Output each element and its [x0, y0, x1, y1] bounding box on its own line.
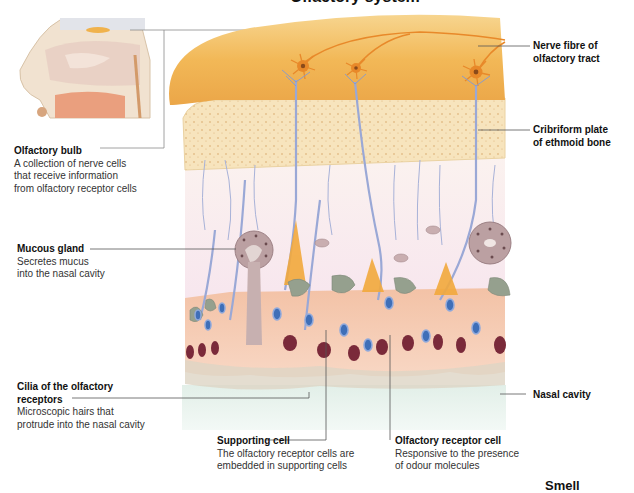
olfactory-receptor-cell-title: Olfactory receptor cell: [395, 435, 519, 448]
mucous-gland-title: Mucous gland: [17, 243, 105, 256]
olfactory-bulb-desc: A collection of nerve cells that receive…: [14, 158, 137, 196]
diagram-title-cropped: Olfactory system: [290, 0, 420, 6]
mucous-gland-desc: Secretes mucus into the nasal cavity: [17, 256, 105, 281]
cilia-desc: Microscopic hairs that protrude into the…: [17, 406, 145, 431]
cribriform-plate: [183, 98, 505, 170]
olfactory-bulb: [169, 15, 505, 105]
label-mucous-gland: Mucous gland Secretes mucus into the nas…: [17, 243, 105, 281]
label-cilia: Cilia of the olfactory receptors Microsc…: [17, 381, 145, 431]
supporting-cell-title: Supporting cell: [217, 435, 354, 448]
label-nasal-cavity: Nasal cavity: [533, 389, 591, 402]
label-cribriform-plate: Cribriform plate of ethmoid bone: [533, 124, 611, 149]
cilia-title: Cilia of the olfactory receptors: [17, 381, 145, 406]
label-nerve-fibre: Nerve fibre of olfactory tract: [533, 40, 600, 65]
label-supporting-cell: Supporting cell The olfactory receptor c…: [217, 435, 354, 473]
olfactory-receptor-cell-desc: Responsive to the presence of odour mole…: [395, 448, 519, 473]
head-section-inset: [14, 14, 164, 129]
label-olfactory-bulb: Olfactory bulb A collection of nerve cel…: [14, 145, 137, 195]
olfactory-bulb-title: Olfactory bulb: [14, 145, 137, 158]
bottom-heading-cropped: Smell: [545, 478, 580, 493]
supporting-cell-desc: The olfactory receptor cells are embedde…: [217, 448, 354, 473]
label-olfactory-receptor-cell: Olfactory receptor cell Responsive to th…: [395, 435, 519, 473]
nasal-cavity-region: [182, 385, 506, 430]
mucous-gland-right: [469, 222, 511, 264]
